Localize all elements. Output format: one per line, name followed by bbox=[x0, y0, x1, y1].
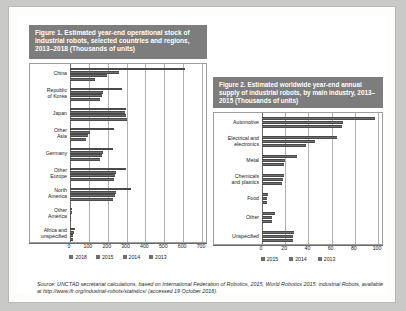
x-tick-label: 40 bbox=[305, 245, 311, 251]
bar-group bbox=[262, 189, 382, 208]
category-label: Electrical and electronics bbox=[214, 136, 262, 147]
bar bbox=[70, 158, 100, 161]
chart-row: Other bbox=[214, 208, 382, 227]
figure-1: Figure 1. Estimated year-end operational… bbox=[29, 25, 207, 277]
bar bbox=[262, 201, 267, 204]
figure-1-legend: 2018201520142013 bbox=[29, 254, 207, 260]
legend-item: 2013 bbox=[318, 256, 336, 262]
bar bbox=[70, 128, 114, 131]
category-label: Unspecified bbox=[214, 234, 262, 240]
bar bbox=[262, 159, 285, 162]
figure-1-title: Figure 1. Estimated year-end operational… bbox=[29, 25, 207, 59]
figure-2-plot: AutomotiveElectrical and electronicsMeta… bbox=[213, 112, 383, 245]
legend-item: 2015 bbox=[96, 254, 114, 260]
bar bbox=[70, 68, 185, 71]
bar bbox=[70, 94, 102, 97]
legend-item: 2014 bbox=[123, 254, 141, 260]
legend-swatch bbox=[289, 257, 293, 261]
x-tick-label: 100 bbox=[373, 245, 382, 251]
chart-row: Other Asia bbox=[30, 124, 206, 144]
bar bbox=[70, 154, 102, 157]
bar-group bbox=[70, 184, 206, 204]
category-label: Chemicals and plastics bbox=[214, 174, 262, 185]
category-label: Japan bbox=[30, 111, 70, 117]
bar-group bbox=[70, 104, 206, 124]
x-tick-label: 400 bbox=[140, 243, 149, 249]
x-tick-label: 200 bbox=[102, 243, 111, 249]
bar bbox=[70, 191, 116, 194]
category-label: Other Asia bbox=[30, 128, 70, 139]
bar bbox=[70, 198, 113, 201]
x-tick-label: 300 bbox=[121, 243, 130, 249]
bar bbox=[70, 234, 73, 237]
legend-item: 2018 bbox=[69, 254, 87, 260]
x-tick-label: 700 bbox=[197, 243, 206, 249]
x-tick-label: 80 bbox=[351, 245, 357, 251]
bar bbox=[70, 211, 72, 214]
bar bbox=[262, 121, 343, 124]
bar bbox=[70, 151, 103, 154]
bar bbox=[70, 231, 74, 234]
bar bbox=[262, 174, 284, 177]
bar bbox=[262, 235, 293, 238]
chart-row: Other America bbox=[30, 204, 206, 224]
axis-line bbox=[213, 245, 383, 246]
bar bbox=[70, 218, 71, 221]
chart-row: Electrical and electronics bbox=[214, 132, 382, 151]
legend-item: 2014 bbox=[289, 256, 307, 262]
bar bbox=[262, 216, 272, 219]
bar-group bbox=[70, 164, 206, 184]
legend-swatch bbox=[149, 255, 153, 259]
bar bbox=[262, 178, 283, 181]
category-label: Africa and unspecified bbox=[30, 228, 70, 239]
bar-group bbox=[262, 208, 382, 227]
bar bbox=[70, 71, 119, 74]
bar bbox=[70, 78, 95, 81]
chart-row: Metal bbox=[214, 151, 382, 170]
x-tick-label: 100 bbox=[84, 243, 93, 249]
bar-group bbox=[262, 227, 382, 246]
bar bbox=[262, 140, 315, 143]
chart-row: Chemicals and plastics bbox=[214, 170, 382, 189]
legend-label: 2015 bbox=[102, 254, 114, 260]
figure-2-legend: 201520142013 bbox=[213, 256, 383, 262]
bar bbox=[70, 118, 127, 121]
page-frame: Figure 1. Estimated year-end operational… bbox=[8, 6, 396, 303]
bar bbox=[70, 91, 103, 94]
bar-group bbox=[262, 170, 382, 189]
category-label: China bbox=[30, 71, 70, 77]
bar bbox=[70, 228, 75, 231]
figure-2-bar-rows: AutomotiveElectrical and electronicsMeta… bbox=[214, 113, 382, 244]
chart-row: Other Europe bbox=[30, 164, 206, 184]
bar bbox=[70, 138, 86, 141]
legend-label: 2013 bbox=[155, 254, 167, 260]
chart-row: Food bbox=[214, 189, 382, 208]
source-note: Source: UNCTAD secretariat calculations,… bbox=[37, 281, 387, 296]
bar bbox=[70, 178, 114, 181]
bar bbox=[262, 144, 306, 147]
legend-swatch bbox=[123, 255, 127, 259]
bar bbox=[70, 214, 71, 217]
bar bbox=[70, 114, 126, 117]
category-label: North America bbox=[30, 188, 70, 199]
chart-row: China bbox=[30, 64, 206, 84]
bar bbox=[262, 220, 272, 223]
bar bbox=[70, 131, 90, 134]
legend-swatch bbox=[96, 255, 100, 259]
bar bbox=[262, 163, 284, 166]
bar-group bbox=[262, 113, 382, 132]
chart-row: Unspecified bbox=[214, 227, 382, 246]
category-label: Republic of Korea bbox=[30, 88, 70, 99]
legend-label: 2018 bbox=[75, 254, 87, 260]
bar-group bbox=[70, 64, 206, 84]
x-tick-label: 0 bbox=[68, 243, 71, 249]
bar bbox=[262, 182, 282, 185]
bar bbox=[70, 238, 73, 241]
legend-swatch bbox=[69, 255, 73, 259]
figure-2: Figure 2. Estimated worldwide year-end a… bbox=[213, 77, 383, 277]
chart-row: Japan bbox=[30, 104, 206, 124]
x-tick-label: 60 bbox=[328, 245, 334, 251]
category-label: Other bbox=[214, 215, 262, 221]
figure-1-bar-rows: ChinaRepublic of KoreaJapanOther AsiaGer… bbox=[30, 64, 206, 242]
category-label: Metal bbox=[214, 158, 262, 164]
